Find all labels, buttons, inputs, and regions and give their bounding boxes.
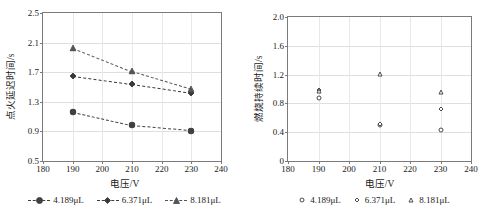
x-axis-title-ignition-delay: 电压/V bbox=[0, 180, 249, 190]
gridline-vertical bbox=[410, 17, 411, 161]
legend-label: 6.371μL bbox=[122, 196, 153, 205]
legend-glyph bbox=[354, 197, 360, 203]
data-point-marker bbox=[129, 81, 136, 88]
x-tick-label: 230 bbox=[434, 165, 448, 174]
data-point-marker bbox=[377, 121, 383, 127]
y-tick-label: 1.6 bbox=[273, 41, 284, 50]
gridline-vertical bbox=[73, 13, 74, 161]
legend-label: 8.181μL bbox=[419, 196, 450, 205]
legend-label: 8.181μL bbox=[190, 196, 221, 205]
legend-glyph bbox=[299, 197, 305, 203]
y-tick-label: 0.4 bbox=[273, 128, 284, 137]
data-point-marker bbox=[69, 72, 76, 79]
legend-item[interactable]: 8.181μL bbox=[406, 195, 450, 205]
y-tick-label: 0.9 bbox=[28, 127, 39, 136]
y-tick-label: 1.2 bbox=[273, 70, 284, 79]
data-point-marker bbox=[69, 44, 76, 51]
x-tick-label: 240 bbox=[214, 165, 228, 174]
y-tick-mark bbox=[40, 13, 43, 14]
data-point-marker bbox=[316, 88, 322, 94]
y-tick-label: 2.1 bbox=[28, 38, 39, 47]
legend-label: 6.371μL bbox=[365, 196, 396, 205]
ignition-delay-chart: 0.50.91.31.72.12.5180190200210220230240 … bbox=[0, 0, 249, 213]
legend-label: 4.189μL bbox=[53, 196, 84, 205]
plot-area-combustion-duration: 00.40.81.21.62.0180190200210220230240 bbox=[287, 16, 472, 162]
legend-glyph bbox=[408, 197, 414, 203]
x-tick-label: 200 bbox=[342, 165, 356, 174]
x-axis-title-combustion-duration: 电压/V bbox=[255, 180, 498, 190]
legend-combustion-duration: 4.189μL6.371μL8.181μL bbox=[249, 195, 498, 205]
legend-label: 4.189μL bbox=[310, 196, 341, 205]
legend-marker-triangle-icon bbox=[165, 195, 187, 205]
gridline-vertical bbox=[162, 13, 163, 161]
data-point-marker bbox=[188, 127, 195, 134]
x-tick-label: 220 bbox=[403, 165, 417, 174]
gridline-vertical bbox=[380, 17, 381, 161]
legend-marker-circle-icon bbox=[28, 195, 50, 205]
legend-item[interactable]: 4.189μL bbox=[297, 195, 341, 205]
data-point-marker bbox=[438, 127, 444, 133]
data-point-marker bbox=[438, 89, 444, 95]
x-tick-label: 190 bbox=[312, 165, 326, 174]
gridline-vertical bbox=[102, 13, 103, 161]
data-point-marker bbox=[316, 95, 322, 101]
combustion-duration-chart: 00.40.81.21.62.0180190200210220230240 燃烧… bbox=[249, 0, 498, 213]
y-tick-mark bbox=[285, 132, 288, 133]
y-tick-mark bbox=[40, 43, 43, 44]
legend-item[interactable]: 6.371μL bbox=[97, 195, 153, 205]
legend-marker-diamond-icon bbox=[352, 195, 362, 205]
y-tick-mark bbox=[285, 75, 288, 76]
y-tick-label: 1.7 bbox=[28, 68, 39, 77]
y-tick-mark bbox=[285, 17, 288, 18]
x-tick-label: 180 bbox=[281, 165, 295, 174]
legend-ignition-delay: 4.189μL6.371μL8.181μL bbox=[0, 195, 249, 205]
data-point-marker bbox=[129, 68, 136, 75]
x-tick-label: 210 bbox=[373, 165, 387, 174]
x-tick-label: 240 bbox=[464, 165, 478, 174]
y-tick-mark bbox=[40, 72, 43, 73]
legend-glyph bbox=[104, 197, 111, 204]
plot-area-ignition-delay: 0.50.91.31.72.12.5180190200210220230240 bbox=[42, 12, 222, 162]
x-tick-label: 180 bbox=[36, 165, 50, 174]
gridline-vertical bbox=[349, 17, 350, 161]
legend-item[interactable]: 8.181μL bbox=[165, 195, 221, 205]
y-tick-mark bbox=[40, 131, 43, 132]
legend-marker-triangle-icon bbox=[406, 195, 416, 205]
y-tick-label: 1.3 bbox=[28, 97, 39, 106]
data-point-marker bbox=[438, 106, 444, 112]
x-tick-label: 230 bbox=[185, 165, 199, 174]
legend-item[interactable]: 6.371μL bbox=[352, 195, 396, 205]
legend-glyph bbox=[173, 197, 180, 204]
y-axis-title-combustion-duration: 燃烧持续时间/s bbox=[255, 50, 265, 128]
x-tick-label: 220 bbox=[155, 165, 169, 174]
figure-container: 0.50.91.31.72.12.5180190200210220230240 … bbox=[0, 0, 498, 213]
x-tick-label: 190 bbox=[66, 165, 80, 174]
y-tick-label: 2.0 bbox=[273, 13, 284, 22]
y-tick-label: 2.5 bbox=[28, 9, 39, 18]
x-tick-label: 210 bbox=[125, 165, 139, 174]
legend-marker-circle-icon bbox=[297, 195, 307, 205]
y-axis-title-ignition-delay: 点火延迟时间/s bbox=[7, 48, 17, 126]
y-tick-mark bbox=[285, 46, 288, 47]
legend-item[interactable]: 4.189μL bbox=[28, 195, 84, 205]
y-tick-mark bbox=[40, 102, 43, 103]
data-point-marker bbox=[377, 71, 383, 77]
legend-marker-diamond-icon bbox=[97, 195, 119, 205]
data-point-marker bbox=[129, 122, 136, 129]
y-tick-mark bbox=[285, 103, 288, 104]
data-point-marker bbox=[188, 86, 195, 93]
legend-glyph bbox=[36, 197, 43, 204]
x-tick-label: 200 bbox=[96, 165, 110, 174]
y-tick-label: 0.8 bbox=[273, 99, 284, 108]
data-point-marker bbox=[69, 109, 76, 116]
